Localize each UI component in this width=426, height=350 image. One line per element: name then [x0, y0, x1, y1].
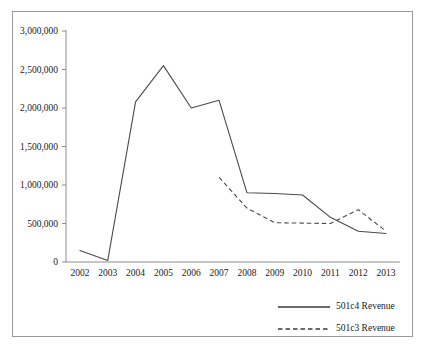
y-axis-tick-label: 3,000,000	[20, 26, 58, 36]
x-axis-tick-label: 2011	[321, 268, 340, 278]
x-axis-tick-label: 2008	[237, 268, 256, 278]
x-axis-tick-label: 2012	[349, 268, 368, 278]
x-axis-tick-label: 2006	[182, 268, 201, 278]
series-line-2	[219, 177, 386, 231]
revenue-line-chart: 0500,0001,000,0001,500,0002,000,0002,500…	[0, 0, 426, 350]
x-axis-tick-label: 2003	[98, 268, 117, 278]
x-axis-tick-label: 2002	[70, 268, 89, 278]
legend-item-label: 501c3 Revenue	[336, 323, 395, 333]
y-axis-tick-label: 2,500,000	[20, 65, 58, 75]
y-axis-tick-label: 2,000,000	[20, 103, 58, 113]
x-axis-tick-label: 2010	[293, 268, 312, 278]
x-axis-tick-label: 2007	[210, 268, 229, 278]
chart-canvas: 0500,0001,000,0001,500,0002,000,0002,500…	[0, 0, 426, 350]
x-axis-tick-label: 2004	[126, 268, 145, 278]
y-axis-tick-label: 1,500,000	[20, 142, 58, 152]
x-axis-tick-label: 2013	[377, 268, 396, 278]
y-axis-tick-label: 500,000	[27, 219, 58, 229]
x-axis-tick-label: 2005	[154, 268, 173, 278]
x-axis-tick-label: 2009	[265, 268, 284, 278]
legend-item-label: 501c4 Revenue	[336, 301, 395, 311]
y-axis-tick-label: 0	[53, 257, 58, 267]
series-line-1	[80, 66, 386, 261]
y-axis-tick-label: 1,000,000	[20, 180, 58, 190]
